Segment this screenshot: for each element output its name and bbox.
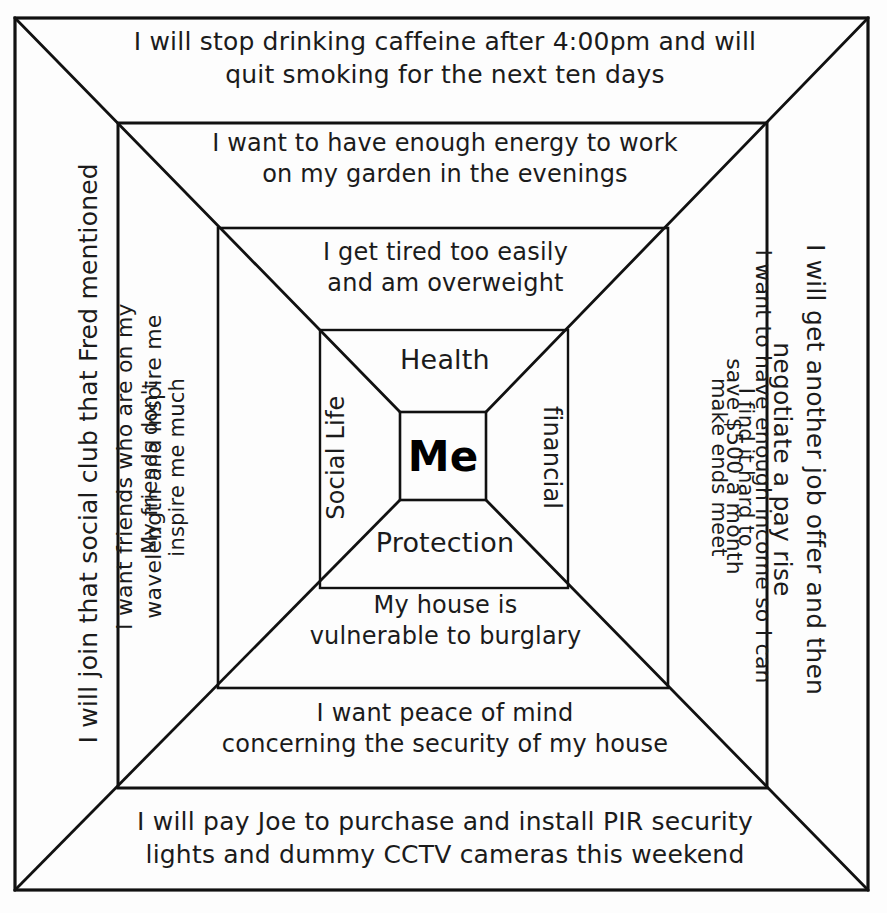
- ring3-right-text[interactable]: I find it hard to make ends meet: [705, 267, 760, 667]
- ring1-bottom-text[interactable]: I will pay Joe to purchase and install P…: [55, 806, 835, 871]
- center-me-label[interactable]: Me: [400, 430, 486, 485]
- ring3-top-text[interactable]: I get tired too easily and am overweight: [253, 237, 638, 299]
- diagram-canvas: I will stop drinking caffeine after 4:00…: [0, 0, 887, 913]
- ring1-left-text[interactable]: I will join that social club that Fred m…: [73, 53, 106, 853]
- ring2-top-text[interactable]: I want to have enough energy to work on …: [160, 128, 730, 190]
- life-area-health-label[interactable]: Health: [330, 342, 560, 377]
- life-area-financial-label[interactable]: financial: [535, 343, 566, 573]
- ring1-top-text[interactable]: I will stop drinking caffeine after 4:00…: [55, 26, 835, 91]
- ring2-bottom-text[interactable]: I want peace of mind concerning the secu…: [160, 698, 730, 760]
- life-area-protection-label[interactable]: Protection: [330, 525, 560, 560]
- ring3-bottom-text[interactable]: My house is vulnerable to burglary: [253, 590, 638, 652]
- life-area-social-life-label[interactable]: Social Life: [321, 343, 352, 573]
- ring3-left-text[interactable]: My friends don't inspire me much: [137, 267, 192, 667]
